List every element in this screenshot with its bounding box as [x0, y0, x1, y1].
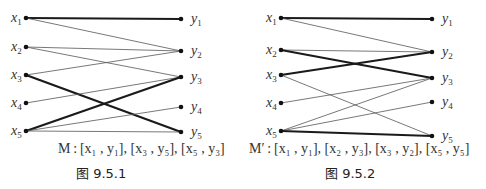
- node-x1: [279, 16, 284, 21]
- edge-x3-y2: [26, 51, 181, 75]
- node-label-x3: x3: [265, 67, 277, 84]
- figure-label-2: 图 9.5.2: [325, 163, 375, 182]
- graph-2: x1x2x3x4x5y1y2y3y4y5: [265, 10, 453, 145]
- node-x4: [24, 101, 29, 106]
- bipartite-graphs: x1x2x3x4x5y1y2y3y4y5x1x2x3x4x5y1y2y3y4y5: [0, 0, 486, 189]
- edge-x2-y2: [26, 47, 181, 51]
- edge-x5-y5: [26, 131, 181, 132]
- node-label-y1: y1: [440, 11, 453, 28]
- node-x3: [24, 73, 29, 78]
- edge-x5-y3: [281, 78, 432, 131]
- node-label-y3: y3: [189, 69, 202, 86]
- edge-x2-y3: [26, 47, 181, 77]
- node-label-x2: x2: [10, 39, 22, 56]
- node-y5: [179, 130, 184, 135]
- edge-x4-y3: [26, 77, 181, 103]
- node-label-x5: x5: [10, 123, 22, 140]
- matched-edge-x1-y1: [26, 18, 181, 19]
- graph-1: x1x2x3x4x5y1y2y3y4y5: [10, 10, 202, 141]
- node-label-y1: y1: [189, 11, 202, 28]
- node-x4: [279, 101, 284, 106]
- edge-x2-y2: [281, 50, 432, 52]
- node-y5: [430, 134, 435, 139]
- node-y3: [179, 75, 184, 80]
- edge-x4-y3: [281, 78, 432, 103]
- figure-label-1: 图 9.5.1: [76, 163, 126, 182]
- node-y3: [430, 76, 435, 81]
- node-label-y5: y5: [189, 124, 202, 141]
- node-y1: [430, 17, 435, 22]
- node-label-x1: x1: [10, 10, 22, 27]
- matched-edge-x3-y2: [281, 52, 432, 75]
- edge-x5-y4: [26, 107, 181, 131]
- node-label-y2: y2: [189, 43, 202, 60]
- node-label-x4: x4: [265, 95, 277, 112]
- node-y1: [179, 17, 184, 22]
- node-x5: [279, 129, 284, 134]
- node-y4: [179, 105, 184, 110]
- node-y4: [430, 100, 435, 105]
- node-label-x4: x4: [10, 95, 22, 112]
- node-label-x1: x1: [265, 10, 277, 27]
- node-label-y3: y3: [440, 70, 453, 87]
- edge-x1-y2: [26, 18, 181, 51]
- matching-caption-1: M : [x₁ , y₁], [x₃ , y₅], [x₅ , y₃]: [58, 141, 225, 157]
- node-y2: [430, 50, 435, 55]
- node-label-y4: y4: [189, 99, 202, 116]
- node-label-y4: y4: [440, 94, 453, 111]
- matched-edge-x5-y5: [281, 131, 432, 136]
- node-x3: [279, 73, 284, 78]
- node-label-x3: x3: [10, 67, 22, 84]
- node-y2: [179, 49, 184, 54]
- node-x2: [24, 45, 29, 50]
- matching-caption-2: M′ : [x₁ , y₁], [x₂ , y₃], [x₃ , y₂], [x…: [249, 141, 469, 157]
- node-label-x2: x2: [265, 42, 277, 59]
- node-label-y2: y2: [440, 44, 453, 61]
- node-x1: [24, 16, 29, 21]
- node-x2: [279, 48, 284, 53]
- edge-x1-y2: [281, 18, 432, 52]
- node-label-x5: x5: [265, 123, 277, 140]
- matched-edge-x1-y1: [281, 18, 432, 19]
- node-x5: [24, 129, 29, 134]
